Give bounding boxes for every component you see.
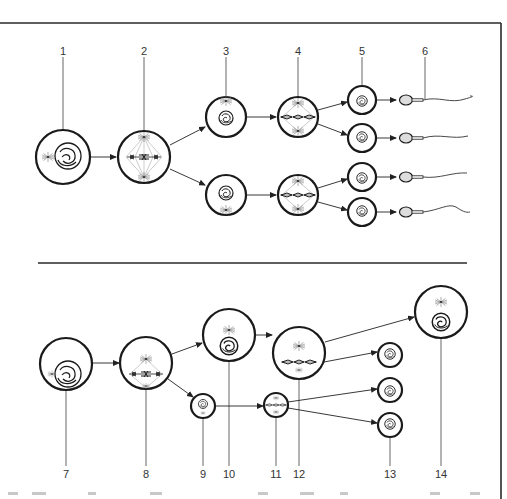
meiosis-diagram: 1 2 3 4 5 6 [0,0,507,499]
spermatid-4 [348,198,376,226]
label-8: 8 [143,468,149,480]
label-12: 12 [293,468,305,480]
cell-secondary-spermatocyte-1 [206,96,246,137]
cell-metaphase-II-1 [278,97,318,137]
label-2: 2 [141,45,147,57]
cell-primary-oocyte [40,338,92,390]
polar-body-1 [378,343,402,367]
cell-first-polar-body [191,394,215,418]
cell-secondary-spermatocyte-2 [206,175,246,215]
label-4: 4 [295,45,301,57]
polar-body-3 [378,413,402,437]
spermatid-2 [348,124,376,152]
cell-metaphase-I [118,131,170,183]
label-1: 1 [60,45,66,57]
spermatozoon-2 [400,133,469,143]
label-5: 5 [359,45,365,57]
label-10: 10 [223,468,235,480]
spermatozoon-3 [400,172,468,182]
cell-polar-body-division [264,393,288,417]
label-7: 7 [63,468,69,480]
cell-primary-spermatocyte [36,130,90,184]
label-3: 3 [223,45,229,57]
cell-secondary-oocyte [203,309,255,361]
label-6: 6 [422,45,428,57]
figure-frame [0,23,501,499]
label-9: 9 [200,468,206,480]
polar-body-2 [378,378,402,402]
cell-meiosis-I-oocyte [120,337,172,389]
spermatozoon-1 [400,95,473,105]
cell-metaphase-II-2 [278,175,318,215]
spermatid-1 [348,86,376,114]
cell-ovum [415,286,467,338]
label-14: 14 [435,468,447,480]
cell-meiosis-II-oocyte [273,327,325,379]
spermatozoon-4 [400,206,471,217]
oogenesis-panel: 7 8 9 10 11 12 13 14 [40,286,467,480]
spermatogenesis-panel: 1 2 3 4 5 6 [36,45,472,226]
spermatid-3 [348,163,376,191]
cut-off-caption-text [0,488,507,499]
label-13: 13 [384,468,396,480]
label-11: 11 [270,468,281,480]
